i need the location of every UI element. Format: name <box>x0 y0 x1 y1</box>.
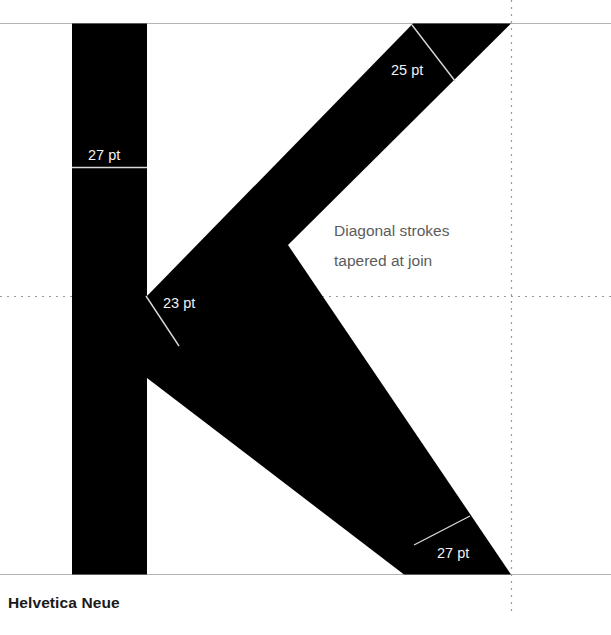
lower-leg-measure-label: 27 pt <box>437 545 469 561</box>
annotation-line-2: tapered at join <box>334 252 432 269</box>
typeface-caption: Helvetica Neue <box>8 594 120 612</box>
letter-k-glyph <box>72 24 511 575</box>
annotation-line-1: Diagonal strokes <box>334 222 450 239</box>
upper-arm-measure-label: 25 pt <box>391 62 423 78</box>
glyph-diagram-svg: 27 pt 25 pt 23 pt 27 pt Diagonal strokes… <box>0 0 611 635</box>
stem-stroke <box>72 24 147 575</box>
lower-leg-stroke <box>147 245 511 575</box>
stem-measure-label: 27 pt <box>88 147 120 163</box>
typography-diagram-canvas: 27 pt 25 pt 23 pt 27 pt Diagonal strokes… <box>0 0 611 635</box>
join-measure-label: 23 pt <box>163 295 195 311</box>
taper-annotation-note: Diagonal strokes tapered at join <box>334 222 450 269</box>
